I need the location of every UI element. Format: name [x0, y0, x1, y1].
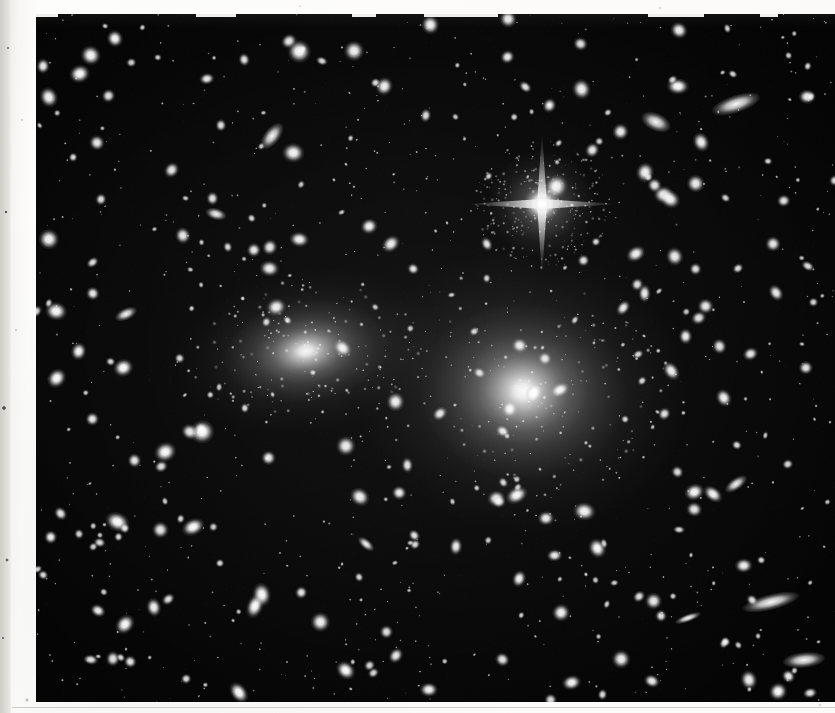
scan-rule-line — [12, 707, 835, 708]
scan-edge-strip — [0, 0, 11, 713]
plate-edge-nick — [648, 14, 704, 17]
astronomical-plate — [36, 14, 835, 702]
plate-edge-nick — [196, 14, 236, 17]
plate-edge-nick — [36, 14, 58, 17]
plate-edge-nick — [760, 14, 778, 17]
plate-scan-page — [0, 0, 835, 713]
plate-edge-nick — [352, 14, 376, 17]
sky-field-canvas — [36, 14, 835, 702]
plate-edge-nick — [424, 14, 498, 17]
